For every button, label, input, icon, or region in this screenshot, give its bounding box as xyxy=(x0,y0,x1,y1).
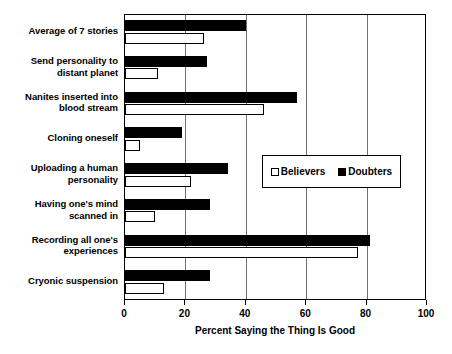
x-tick-label: 80 xyxy=(360,308,371,319)
category-label: Recording all one'sexperiences xyxy=(0,234,118,257)
category-label-line: Cloning oneself xyxy=(0,132,118,144)
x-tick-label: 0 xyxy=(121,308,127,319)
category-label-line: Nanites inserted into xyxy=(0,91,118,103)
x-tick xyxy=(184,300,185,305)
category-label-line: Having one's mind xyxy=(0,198,118,210)
category-label: Average of 7 stories xyxy=(0,25,118,37)
legend-label-believers: Believers xyxy=(281,167,325,177)
x-tick xyxy=(124,300,125,305)
category-label-line: blood stream xyxy=(0,102,118,114)
legend-label-doubters: Doubters xyxy=(348,167,392,177)
x-tick-label: 20 xyxy=(179,308,190,319)
category-label-line: Cryonic suspension xyxy=(0,275,118,287)
x-tick-label: 60 xyxy=(300,308,311,319)
category-label-line: experiences xyxy=(0,245,118,257)
bar-believers xyxy=(125,140,140,151)
category-label-line: Send personality to xyxy=(0,55,118,67)
bar-doubters xyxy=(125,163,228,174)
bar-doubters xyxy=(125,235,370,246)
category-label: Send personality todistant planet xyxy=(0,55,118,78)
x-axis: 020406080100 xyxy=(124,300,426,301)
category-label-line: distant planet xyxy=(0,67,118,79)
bar-believers xyxy=(125,211,155,222)
bar-doubters xyxy=(125,127,182,138)
x-tick xyxy=(366,300,367,305)
x-tick-label: 100 xyxy=(418,308,435,319)
category-label: Uploading a humanpersonality xyxy=(0,162,118,185)
bar-doubters xyxy=(125,199,210,210)
category-label: Cryonic suspension xyxy=(0,275,118,287)
category-label-line: personality xyxy=(0,174,118,186)
bar-believers xyxy=(125,104,264,115)
category-label-line: Recording all one's xyxy=(0,234,118,246)
category-label: Cloning oneself xyxy=(0,132,118,144)
bar-believers xyxy=(125,176,191,187)
bar-doubters xyxy=(125,20,246,31)
bar-doubters xyxy=(125,56,207,67)
x-tick xyxy=(305,300,306,305)
category-label-line: Uploading a human xyxy=(0,162,118,174)
bar-believers xyxy=(125,33,204,44)
x-axis-title: Percent Saying the Thing Is Good xyxy=(124,325,426,336)
bar-chart: Average of 7 storiesSend personality tod… xyxy=(0,0,452,354)
category-axis: Average of 7 storiesSend personality tod… xyxy=(0,14,118,300)
bar-doubters xyxy=(125,270,210,281)
chart-legend: Believers Doubters xyxy=(262,155,401,188)
category-label: Having one's mindscanned in xyxy=(0,198,118,221)
bar-believers xyxy=(125,68,158,79)
legend-swatch-believers-icon xyxy=(271,168,279,176)
bar-doubters xyxy=(125,92,297,103)
x-tick-label: 40 xyxy=(239,308,250,319)
category-label-line: scanned in xyxy=(0,210,118,222)
legend-entry-doubters: Doubters xyxy=(338,167,392,177)
category-label: Nanites inserted intoblood stream xyxy=(0,91,118,114)
legend-swatch-doubters-icon xyxy=(338,168,346,176)
x-tick xyxy=(426,300,427,305)
category-label-line: Average of 7 stories xyxy=(0,25,118,37)
x-tick xyxy=(245,300,246,305)
bar-believers xyxy=(125,283,164,294)
legend-entry-believers: Believers xyxy=(271,167,325,177)
bar-believers xyxy=(125,247,358,258)
